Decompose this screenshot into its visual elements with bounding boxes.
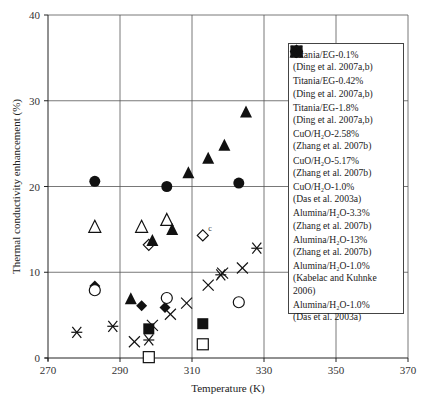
x-tick-label: 350	[328, 364, 345, 376]
legend-source: (Zhang et al. 2007b)	[293, 167, 371, 179]
y-tick-label: 40	[29, 9, 41, 21]
y-tick-label: 10	[29, 266, 41, 278]
y-tick-label: 30	[29, 95, 41, 107]
legend: Titania/EG-0.1%(Ding et al. 2007a,b) Tit…	[288, 43, 404, 314]
series-cross	[129, 262, 248, 347]
series-triangle-filled	[125, 105, 252, 304]
x-tick-label: 310	[184, 364, 201, 376]
x-tick-label: 370	[400, 364, 417, 376]
series-circle-filled	[89, 176, 244, 192]
legend-label: Titania/EG-1.8%	[293, 102, 373, 114]
legend-source: (Ding et al. 2007a,b)	[293, 88, 373, 100]
legend-item-titania-eg-0-1: Titania/EG-0.1%(Ding et al. 2007a,b)	[293, 49, 399, 73]
series-triangle-open	[89, 213, 173, 232]
legend-source: (Ding et al. 2007a,b)	[293, 61, 373, 73]
legend-item-titania-eg-0-42: Titania/EG-0.42%(Ding et al. 2007a,b)	[293, 75, 399, 99]
legend-label: Alumina/H₂O-13%	[293, 234, 371, 246]
x-tick-label: 290	[112, 364, 129, 376]
legend-source: 2006)	[293, 285, 377, 297]
legend-item-cuo-h2o-1-0: CuO/H₂O-1.0%(Das et al. 2003a)	[293, 181, 399, 205]
legend-label: Alumina/H₂O-1.0%	[293, 299, 370, 311]
legend-source: (Kabelac and Kuhnke	[293, 272, 377, 284]
legend-label: Alumina/H₂O-1.0%	[293, 260, 377, 272]
legend-source: (Das et al. 2003a)	[293, 193, 361, 205]
series-square-open	[143, 339, 208, 363]
legend-item-cuo-h2o-5-17: CuO/H₂O-5.17%(Zhang et al. 2007b)	[293, 155, 399, 179]
legend-label: Titania/EG-0.1%	[293, 49, 373, 61]
x-tick-label: 330	[256, 364, 273, 376]
legend-source: (Ding et al. 2007a,b)	[293, 114, 373, 126]
legend-label: Alumina/H₂O-3.3%	[293, 207, 371, 219]
legend-label: Titania/EG-0.42%	[293, 75, 373, 87]
legend-item-alumina-h2o-13: Alumina/H₂O-13%(Zhang et al. 2007b)	[293, 234, 399, 258]
legend-source: (Zhang et al. 2007b)	[293, 140, 371, 152]
legend-item-alumina-h2o-1-0-das: Alumina/H₂O-1.0%(Das et al. 2003a)	[293, 299, 399, 323]
legend-item-alumina-h2o-1-0-kabelac: Alumina/H₂O-1.0%(Kabelac and Kuhnke2006)	[293, 260, 399, 297]
annotation-label: c	[208, 224, 212, 233]
cross-icon	[289, 44, 304, 59]
legend-label: CuO/H₂O-5.17%	[293, 155, 371, 167]
legend-source: (Zhang et al. 2007b)	[293, 246, 371, 258]
legend-item-titania-eg-1-8: Titania/EG-1.8%(Ding et al. 2007a,b)	[293, 102, 399, 126]
y-tick-label: 20	[29, 181, 41, 193]
x-tick-label: 270	[40, 364, 57, 376]
legend-label: CuO/H₂O-1.0%	[293, 181, 361, 193]
legend-label: CuO/H₂O-2.58%	[293, 128, 371, 140]
legend-source: (Das et al. 2003a)	[293, 311, 370, 323]
legend-item-alumina-h2o-3-3: Alumina/H₂O-3.3%(Zhang et al. 2007b)	[293, 207, 399, 231]
y-tick-label: 0	[35, 352, 41, 364]
x-axis-title: Temperature (K)	[191, 382, 265, 395]
legend-source: (Zhang et al. 2007b)	[293, 220, 371, 232]
legend-item-cuo-h2o-2-58: CuO/H₂O-2.58%(Zhang et al. 2007b)	[293, 128, 399, 152]
y-axis-title: Thermal conductivity enhancement (%)	[10, 99, 23, 274]
